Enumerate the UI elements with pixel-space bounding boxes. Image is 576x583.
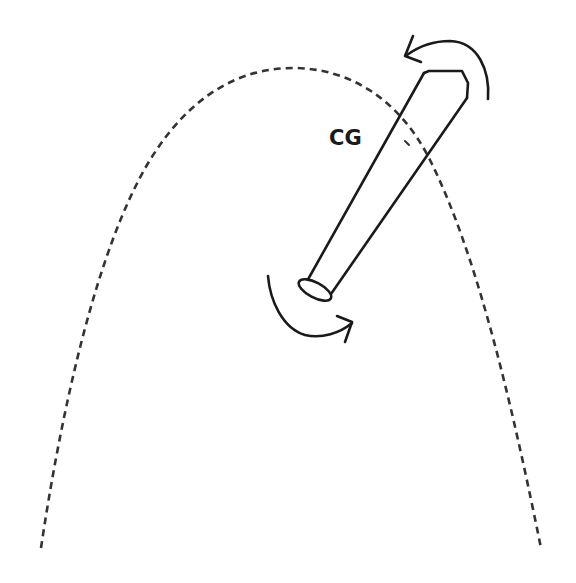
bat: [296, 71, 468, 305]
cg-label: CG: [329, 128, 362, 149]
cg-marker: [405, 141, 409, 145]
bat-left-edge: [306, 73, 424, 283]
rotation-arrow-top: [405, 36, 488, 99]
bat-barrel-end: [424, 71, 468, 98]
diagram-canvas: [0, 0, 576, 583]
trajectory-curve: [41, 68, 541, 548]
bat-knob: [296, 275, 335, 305]
